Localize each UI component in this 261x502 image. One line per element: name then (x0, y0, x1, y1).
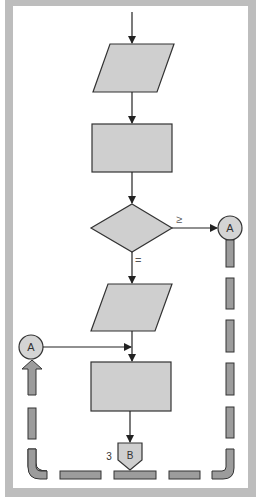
process-box-2[interactable] (91, 362, 171, 411)
offpage-page-number: 3 (106, 451, 112, 462)
offpage-b-label: B (127, 450, 134, 461)
flowchart-svg: ≥ A = A B 3 (0, 0, 261, 502)
flowchart-canvas: ≥ A = A B 3 (0, 0, 261, 502)
connector-a-left-label: A (27, 341, 35, 353)
process-box-1[interactable] (92, 124, 172, 172)
ge-label: ≥ (176, 213, 182, 225)
connector-a-right[interactable]: A (218, 216, 242, 240)
connector-a-right-label: A (226, 222, 234, 234)
eq-label: = (135, 254, 141, 266)
connector-a-left[interactable]: A (19, 335, 43, 359)
